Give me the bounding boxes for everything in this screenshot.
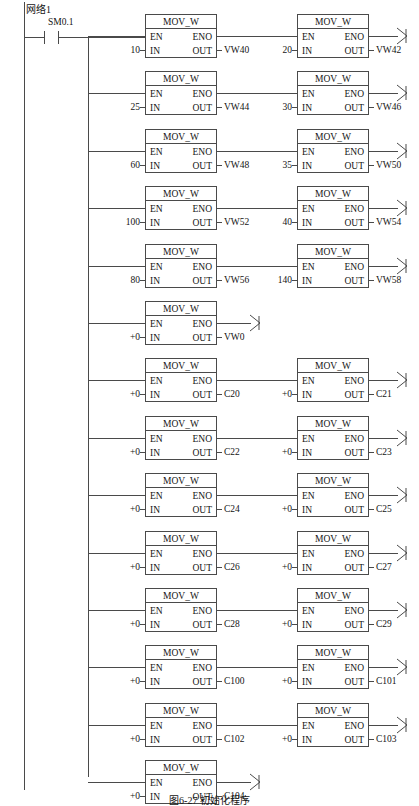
- pin-out-label: OUT: [344, 388, 364, 402]
- function-block-vw54[interactable]: MOV_WENENOINOUT: [297, 186, 369, 230]
- pin-in-label: IN: [150, 561, 160, 575]
- function-block-c27[interactable]: MOV_WENENOINOUT: [297, 531, 369, 575]
- pin-en-label: EN: [302, 87, 315, 101]
- function-block-vw50[interactable]: MOV_WENENOINOUT: [297, 129, 369, 173]
- pin-tick-in: [292, 681, 297, 682]
- function-block-c25[interactable]: MOV_WENENOINOUT: [297, 473, 369, 517]
- operand-out-c29: C29: [376, 619, 392, 629]
- operand-out-c102: C102: [224, 734, 245, 744]
- function-block-c26[interactable]: MOV_WENENOINOUT: [145, 531, 217, 575]
- pin-eno-label: ENO: [192, 260, 212, 274]
- function-block-c28[interactable]: MOV_WENENOINOUT: [145, 588, 217, 632]
- function-block-title: MOV_W: [146, 187, 216, 201]
- function-block-c24[interactable]: MOV_WENENOINOUT: [145, 473, 217, 517]
- pin-tick-in: [140, 739, 145, 740]
- continuation-arrow-icon: [396, 84, 408, 102]
- pin-tick-in: [292, 739, 297, 740]
- pin-tick-in: [292, 394, 297, 395]
- function-block-c101[interactable]: MOV_WENENOINOUT: [297, 645, 369, 689]
- continuation-arrow-icon: [396, 486, 408, 504]
- function-block-title: MOV_W: [298, 15, 368, 29]
- function-block-title: MOV_W: [146, 417, 216, 431]
- function-block-title: MOV_W: [298, 72, 368, 86]
- pin-tick-in: [292, 165, 297, 166]
- contact-bar-left: [44, 31, 45, 44]
- pin-eno-label: ENO: [192, 719, 212, 733]
- function-block-vw52[interactable]: MOV_WENENOINOUT: [145, 186, 217, 230]
- pin-out-label: OUT: [192, 675, 212, 689]
- function-block-c22[interactable]: MOV_WENENOINOUT: [145, 416, 217, 460]
- continuation-arrow-icon: [396, 371, 408, 389]
- pin-tick-in: [292, 50, 297, 51]
- pin-out-label: OUT: [344, 101, 364, 115]
- pin-en-label: EN: [302, 661, 315, 675]
- rung-6-eno-wire: [217, 323, 251, 324]
- function-block-c100[interactable]: MOV_WENENOINOUT: [145, 645, 217, 689]
- pin-eno-label: ENO: [344, 661, 364, 675]
- function-block-vw46[interactable]: MOV_WENENOINOUT: [297, 71, 369, 115]
- function-block-c29[interactable]: MOV_WENENOINOUT: [297, 588, 369, 632]
- pin-en-label: EN: [302, 547, 315, 561]
- function-block-vw0[interactable]: MOV_WENENOINOUT: [145, 301, 217, 345]
- pin-eno-label: ENO: [192, 87, 212, 101]
- function-block-vw48[interactable]: MOV_WENENOINOUT: [145, 129, 217, 173]
- pin-tick-in: [140, 107, 145, 108]
- pin-en-label: EN: [302, 30, 315, 44]
- function-block-vw40[interactable]: MOV_WENENOINOUT: [145, 14, 217, 58]
- pin-in-label: IN: [150, 44, 160, 58]
- function-block-vw44[interactable]: MOV_WENENOINOUT: [145, 71, 217, 115]
- operand-in-vw54: 40: [249, 217, 292, 227]
- function-block-vw56[interactable]: MOV_WENENOINOUT: [145, 244, 217, 288]
- pin-tick-in: [140, 681, 145, 682]
- rung-wire-contact-to-bus: [58, 37, 146, 38]
- pin-en-label: EN: [150, 317, 163, 331]
- pin-in-label: IN: [302, 44, 312, 58]
- pin-en-label: EN: [150, 661, 163, 675]
- rung-12-link-wire: [217, 667, 297, 668]
- pin-tick-in: [140, 165, 145, 166]
- pin-tick-in: [292, 107, 297, 108]
- pin-in-label: IN: [150, 331, 160, 345]
- operand-in-c20: +0: [97, 389, 140, 399]
- pin-tick-out: [369, 739, 374, 740]
- function-block-title: MOV_W: [298, 187, 368, 201]
- pin-eno-label: ENO: [192, 604, 212, 618]
- function-block-c23[interactable]: MOV_WENENOINOUT: [297, 416, 369, 460]
- pin-out-label: OUT: [344, 216, 364, 230]
- pin-in-label: IN: [150, 446, 160, 460]
- ladder-diagram-canvas: 网络1 SM0.1 MOV_WENENOINOUT10VW40MOV_WENEN…: [0, 0, 419, 806]
- pin-tick-out: [217, 107, 222, 108]
- rung-7-link-wire: [217, 380, 297, 381]
- pin-eno-label: ENO: [344, 547, 364, 561]
- function-block-vw42[interactable]: MOV_WENENOINOUT: [297, 14, 369, 58]
- operand-out-vw42: VW42: [376, 45, 401, 55]
- pin-en-label: EN: [150, 719, 163, 733]
- operand-in-c24: +0: [97, 504, 140, 514]
- pin-out-label: OUT: [192, 388, 212, 402]
- pin-eno-label: ENO: [344, 202, 364, 216]
- function-block-c103[interactable]: MOV_WENENOINOUT: [297, 703, 369, 747]
- pin-in-label: IN: [302, 274, 312, 288]
- rung-10-eno-wire: [369, 553, 398, 554]
- function-block-vw58[interactable]: MOV_WENENOINOUT: [297, 244, 369, 288]
- function-block-c20[interactable]: MOV_WENENOINOUT: [145, 358, 217, 402]
- operand-in-c21: +0: [249, 389, 292, 399]
- continuation-arrow-icon: [396, 27, 408, 45]
- operand-in-vw40: 10: [97, 45, 140, 55]
- pin-tick-out: [369, 567, 374, 568]
- rung-8-eno-wire: [369, 438, 398, 439]
- pin-en-label: EN: [302, 202, 315, 216]
- pin-in-label: IN: [302, 733, 312, 747]
- rung-13-bus-wire: [88, 725, 145, 726]
- rung-3-bus-wire: [88, 151, 145, 152]
- pin-eno-label: ENO: [344, 145, 364, 159]
- function-block-c102[interactable]: MOV_WENENOINOUT: [145, 703, 217, 747]
- pin-out-label: OUT: [192, 274, 212, 288]
- function-block-c21[interactable]: MOV_WENENOINOUT: [297, 358, 369, 402]
- pin-out-label: OUT: [344, 503, 364, 517]
- function-block-title: MOV_W: [146, 646, 216, 660]
- operand-out-vw50: VW50: [376, 160, 401, 170]
- pin-eno-label: ENO: [192, 30, 212, 44]
- operand-out-c24: C24: [224, 504, 240, 514]
- pin-tick-in: [292, 280, 297, 281]
